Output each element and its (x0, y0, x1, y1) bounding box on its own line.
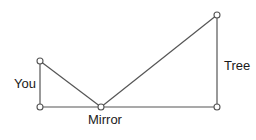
mirror-label: Mirror (88, 112, 123, 127)
tree-label: Tree (224, 58, 250, 73)
mirror-reflection-diagram: You Mirror Tree (0, 0, 256, 140)
reflected-ray (101, 15, 217, 107)
you-base-node (37, 104, 43, 110)
diagram-canvas: You Mirror Tree (0, 0, 256, 140)
incident-ray (40, 61, 101, 107)
tree-base-node (214, 104, 220, 110)
you-label: You (14, 76, 36, 91)
mirror-node (98, 104, 104, 110)
you-top-node (37, 58, 43, 64)
tree-top-node (214, 12, 220, 18)
